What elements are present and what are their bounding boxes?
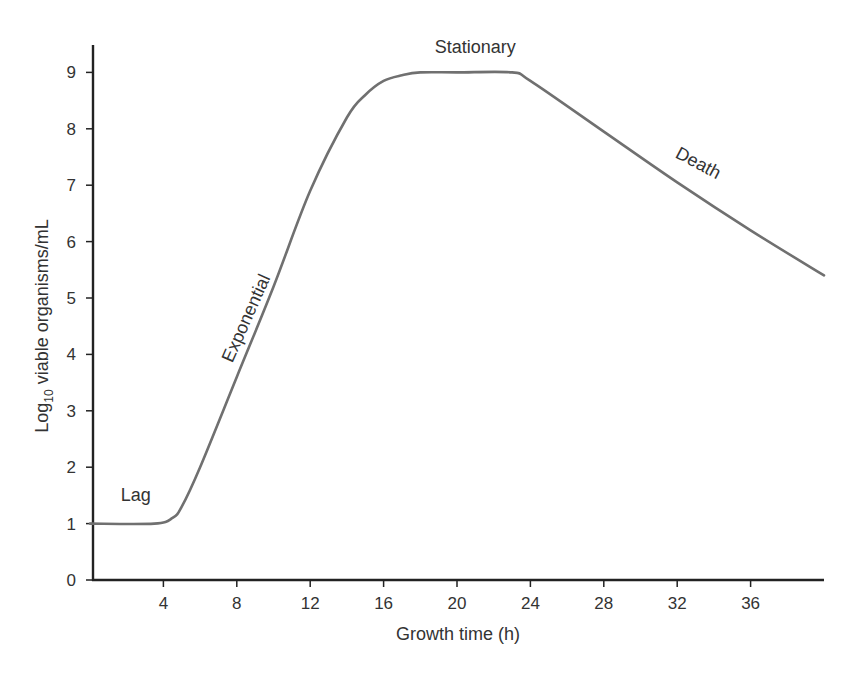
x-tick-label: 12 xyxy=(301,594,320,613)
y-tick-label: 9 xyxy=(67,63,76,82)
x-tick-label: 4 xyxy=(159,594,168,613)
growth-curve-chart: 0123456789 4812162024283236 LagExponenti… xyxy=(0,0,861,684)
y-tick-label: 3 xyxy=(67,402,76,421)
y-tick-label: 4 xyxy=(67,345,76,364)
y-tick-label: 7 xyxy=(67,176,76,195)
x-tick-label: 24 xyxy=(521,594,540,613)
y-tick-label: 8 xyxy=(67,120,76,139)
y-tick-label: 2 xyxy=(67,458,76,477)
y-tick-label: 6 xyxy=(67,233,76,252)
phase-label-stationary: Stationary xyxy=(435,37,516,57)
growth-curve-line xyxy=(90,72,824,524)
x-tick-label: 32 xyxy=(668,594,687,613)
y-axis-ticks: 0123456789 xyxy=(67,63,93,590)
y-tick-label: 1 xyxy=(67,515,76,534)
x-axis-ticks: 4812162024283236 xyxy=(159,580,760,613)
x-tick-label: 8 xyxy=(232,594,241,613)
x-tick-label: 16 xyxy=(374,594,393,613)
phase-annotations: LagExponentialStationaryDeath xyxy=(121,37,724,505)
y-axis-label-subscript: 10 xyxy=(42,389,56,403)
x-tick-label: 20 xyxy=(448,594,467,613)
x-axis-label: Growth time (h) xyxy=(396,624,520,644)
phase-label-lag: Lag xyxy=(121,485,151,505)
x-tick-label: 36 xyxy=(741,594,760,613)
phase-label-exponential: Exponential xyxy=(218,271,275,365)
y-tick-label: 5 xyxy=(67,289,76,308)
y-axis-label: Log10 viable organisms/mL xyxy=(32,219,56,432)
y-axis-label-rest: viable organisms/mL xyxy=(32,219,52,389)
axes xyxy=(92,45,824,581)
x-tick-label: 28 xyxy=(594,594,613,613)
y-axis-label-base: Log xyxy=(32,403,52,433)
y-tick-label: 0 xyxy=(67,571,76,590)
phase-label-death: Death xyxy=(672,143,724,183)
